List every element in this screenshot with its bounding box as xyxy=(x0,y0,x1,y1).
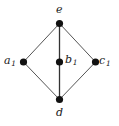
vertex-label-c1-base: c xyxy=(99,54,105,67)
edge-a1-d xyxy=(24,62,60,100)
vertex-a1 xyxy=(20,58,27,65)
vertex-label-b1: b1 xyxy=(65,54,78,67)
vertex-d xyxy=(56,96,63,103)
vertex-b1 xyxy=(56,58,63,65)
vertex-label-e-base: e xyxy=(56,3,63,16)
edge-c1-d xyxy=(60,62,96,100)
vertex-label-d-base: d xyxy=(56,106,63,119)
vertex-e xyxy=(56,20,63,27)
vertex-label-b1-base: b xyxy=(65,53,72,66)
edge-e-a1 xyxy=(24,24,60,63)
vertex-label-c1-sub: 1 xyxy=(106,59,111,68)
vertex-label-a1-base: a xyxy=(4,54,11,67)
vertex-label-d: d xyxy=(56,107,64,120)
vertex-label-b1-sub: 1 xyxy=(73,58,78,67)
vertex-label-a1: a1 xyxy=(4,55,16,68)
vertex-label-a1-sub: 1 xyxy=(11,59,16,68)
graph-figure: e a1 b1 c1 d xyxy=(0,0,119,126)
vertex-label-e: e xyxy=(56,4,63,17)
vertex-label-c1: c1 xyxy=(99,55,111,68)
